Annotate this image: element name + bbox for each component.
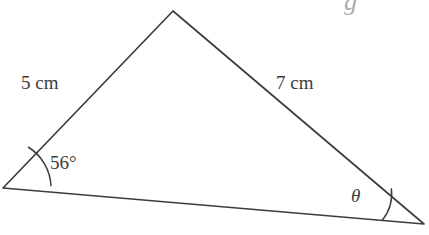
cropped-glyph-artifact: g [344, 0, 357, 17]
side-length-label-right: 7 cm [276, 73, 313, 92]
triangle-figure: 5 cm 7 cm 56° θ g [0, 0, 429, 235]
triangle-shape [3, 11, 424, 224]
angle-label-theta: θ [351, 186, 360, 205]
triangle-drawing [0, 0, 429, 235]
side-length-label-left: 5 cm [21, 73, 58, 92]
angle-label-56-degrees: 56° [50, 153, 77, 172]
